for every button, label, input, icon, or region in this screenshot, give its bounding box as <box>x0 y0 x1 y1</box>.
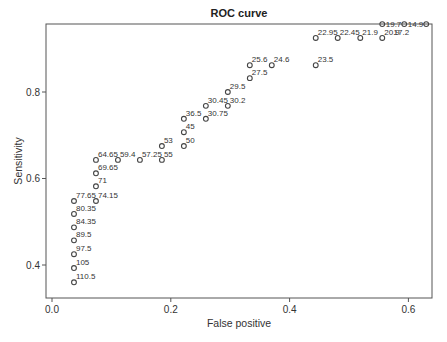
point-label: 45 <box>186 122 195 131</box>
point-label: 30.45 <box>208 96 229 105</box>
x-axis-label: False positive <box>207 317 271 329</box>
point-label: 50 <box>186 136 195 145</box>
y-tick-label: 0.8 <box>26 87 40 98</box>
point-label: 22.95 <box>318 28 339 37</box>
point-label: 71 <box>98 176 107 185</box>
point-label: 74.15 <box>98 191 119 200</box>
point-label: 53 <box>164 136 173 145</box>
point-label: 21.9 <box>362 28 378 37</box>
point-label: 25.6 <box>252 55 268 64</box>
point-label: 23.5 <box>318 55 334 64</box>
y-tick-label: 0.4 <box>26 260 40 271</box>
point-label: 80.35 <box>76 204 97 213</box>
point-label: 36.5 <box>186 109 202 118</box>
point-label: 30.2 <box>230 96 246 105</box>
y-axis: 0.40.60.8 <box>26 87 46 271</box>
roc-chart: ROC curve 0.00.20.40.6 0.40.60.8 110.510… <box>0 0 447 342</box>
x-axis: 0.00.20.40.6 <box>45 298 416 315</box>
plot-frame <box>46 24 432 298</box>
y-axis-label: Sensitivity <box>12 137 24 185</box>
point-label: 29.5 <box>230 82 246 91</box>
point-label: 17.2 <box>394 28 410 37</box>
point-label: 22.45 <box>340 28 361 37</box>
y-tick-label: 0.6 <box>26 173 40 184</box>
point-label: 55 <box>164 150 173 159</box>
chart-title: ROC curve <box>211 7 268 19</box>
point-label: 77.65 <box>76 191 97 200</box>
point-label: 27.5 <box>252 68 268 77</box>
x-tick-label: 0.4 <box>283 304 297 315</box>
data-points: 110.510597.589.584.3580.3577.6574.157169… <box>72 20 429 285</box>
point-label: 89.5 <box>76 230 92 239</box>
point-label: 14.9 <box>408 20 424 29</box>
point-label: 69.65 <box>98 163 119 172</box>
point-label: 64.65 <box>98 150 119 159</box>
point-label: 110.5 <box>76 272 96 281</box>
x-tick-label: 0.0 <box>45 304 59 315</box>
x-tick-label: 0.6 <box>401 304 415 315</box>
point-label: 57.25 <box>142 150 163 159</box>
x-tick-label: 0.2 <box>164 304 178 315</box>
point-label: 97.5 <box>76 244 92 253</box>
point-label: 24.6 <box>274 55 290 64</box>
point-label: 30.75 <box>208 109 229 118</box>
point-label: 84.35 <box>76 217 97 226</box>
point-label: 59.4 <box>120 150 136 159</box>
point-label: 105 <box>76 258 90 267</box>
